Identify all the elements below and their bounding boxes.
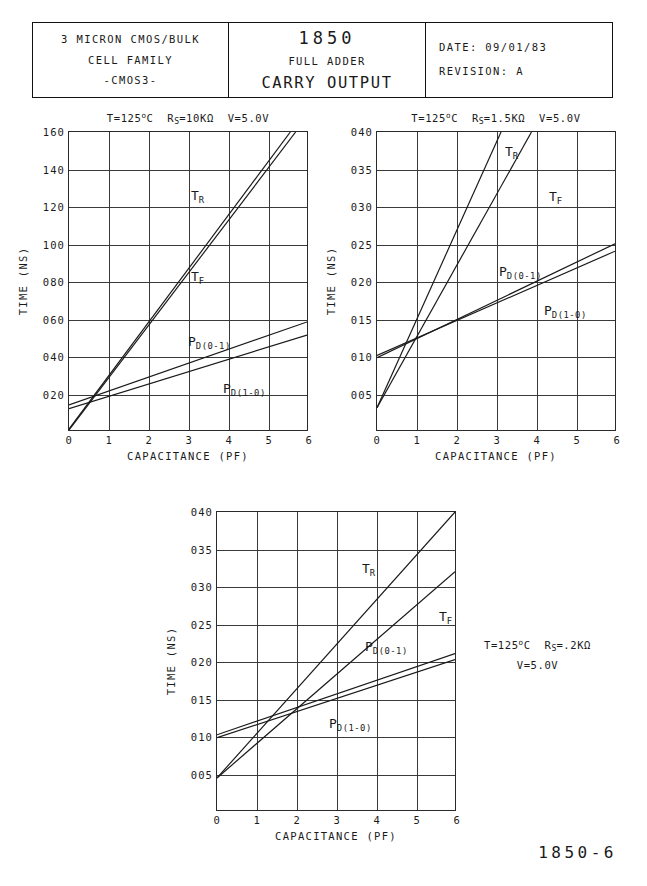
x-tick-label: 3 [334, 815, 341, 826]
x-tick-label: 4 [534, 435, 541, 446]
title-block-right: DATE: 09/01/83 REVISION: A [426, 23, 612, 97]
y-tick-label: 100 [43, 239, 65, 250]
x-tick-label: 6 [454, 815, 461, 826]
x-tick-label: 2 [454, 435, 461, 446]
chart-3-conditions-annotation: T=125oC RS=.2KΩ V=5.0V [484, 636, 591, 674]
chart-2-rs-value: =1.5KΩ [484, 112, 526, 124]
chart-3-x-axis-label: CAPACITANCE (PF) [275, 830, 397, 842]
date-value: 09/01/83 [485, 41, 547, 53]
part-family: FULL ADDER [288, 52, 365, 72]
y-tick-label: 040 [351, 127, 373, 138]
chart-1-temp: T=125 [107, 112, 142, 124]
chart-1-label-PD10: PD(1-0) [223, 382, 266, 398]
y-tick-label: 025 [351, 239, 373, 250]
chart-1: T=125oC RS=10KΩ V=5.0V TIME (NS) CAPACIT… [68, 131, 308, 431]
chart-2: T=125oC RS=1.5KΩ V=5.0V TIME (NS) CAPACI… [376, 131, 616, 431]
chart-3-label-TF: TF [439, 610, 453, 626]
y-tick-label: 020 [191, 657, 213, 668]
chart-1-plot-area: T=125oC RS=10KΩ V=5.0V TIME (NS) CAPACIT… [68, 131, 308, 431]
chart-1-label-TF: TF [191, 270, 205, 286]
x-tick-label: 5 [266, 435, 273, 446]
technology-line: -CMOS3- [103, 70, 157, 90]
chart-2-unit-c: C [451, 112, 458, 124]
cell-family-line: CELL FAMILY [88, 50, 173, 70]
chart-3-label-PD01: PD(0-1) [365, 640, 408, 656]
y-tick-label: 035 [191, 544, 213, 555]
chart-2-curves [377, 132, 615, 430]
chart-3-curves [217, 512, 455, 810]
chart-2-label-TF: TF [549, 190, 563, 206]
chart-1-x-axis-label: CAPACITANCE (PF) [127, 450, 249, 462]
chart-2-label-TR: TR [505, 145, 519, 161]
x-tick-label: 2 [294, 815, 301, 826]
title-block-middle: 1850 FULL ADDER CARRY OUTPUT [229, 23, 426, 97]
date-row: DATE: 09/01/83 [439, 36, 547, 60]
x-tick-label: 0 [374, 435, 381, 446]
y-tick-label: 080 [43, 277, 65, 288]
y-tick-label: 160 [43, 127, 65, 138]
chart-3-y-axis-label: TIME (NS) [165, 627, 177, 696]
chart-1-curves [69, 132, 307, 430]
chart-2-title: T=125oC RS=1.5KΩ V=5.0V [411, 111, 580, 126]
y-tick-label: 040 [43, 352, 65, 363]
chart-1-unit-c: C [147, 112, 154, 124]
chart-3-plot-area: TIME (NS) CAPACITANCE (PF) TR TF PD(0-1)… [216, 511, 456, 811]
y-tick-label: 140 [43, 164, 65, 175]
y-tick-label: 015 [191, 694, 213, 705]
part-function: CARRY OUTPUT [261, 72, 392, 95]
x-tick-label: 1 [106, 435, 113, 446]
y-tick-label: 010 [351, 352, 373, 363]
x-tick-label: 4 [226, 435, 233, 446]
process-line: 3 MICRON CMOS/BULK [61, 29, 200, 49]
x-tick-label: 0 [66, 435, 73, 446]
x-tick-label: 5 [414, 815, 421, 826]
chart-2-voltage: V=5.0V [539, 112, 581, 124]
y-tick-label: 010 [191, 732, 213, 743]
sheet-number: 1850-6 [538, 843, 617, 862]
y-tick-label: 020 [351, 277, 373, 288]
chart-2-plot-area: T=125oC RS=1.5KΩ V=5.0V TIME (NS) CAPACI… [376, 131, 616, 431]
x-tick-label: 2 [146, 435, 153, 446]
y-tick-label: 025 [191, 619, 213, 630]
revision-value: A [516, 65, 524, 77]
chart-2-label-PD10: PD(1-0) [544, 304, 587, 320]
chart-2-x-axis-label: CAPACITANCE (PF) [435, 450, 557, 462]
chart-3-label-TR: TR [362, 562, 376, 578]
y-tick-label: 035 [351, 164, 373, 175]
part-number: 1850 [299, 25, 356, 52]
chart-3-label-PD10: PD(1-0) [329, 717, 372, 733]
chart-2-series-PD01 [377, 244, 615, 358]
y-tick-label: 030 [351, 202, 373, 213]
chart-2-series-TR [377, 132, 501, 408]
chart-3-series-TF [217, 572, 455, 778]
x-tick-label: 1 [254, 815, 261, 826]
date-label: DATE: [439, 41, 478, 53]
y-tick-label: 005 [191, 769, 213, 780]
chart-1-label-TR: TR [191, 189, 205, 205]
title-block-left: 3 MICRON CMOS/BULK CELL FAMILY -CMOS3- [33, 23, 229, 97]
y-tick-label: 060 [43, 314, 65, 325]
chart-2-temp: T=125 [411, 112, 446, 124]
revision-label: REVISION: [439, 65, 509, 77]
y-tick-label: 030 [191, 582, 213, 593]
chart-1-y-axis-label: TIME (NS) [17, 247, 29, 316]
x-tick-label: 5 [574, 435, 581, 446]
revision-row: REVISION: A [439, 60, 524, 84]
chart-3-series-TR [217, 512, 455, 778]
y-tick-label: 015 [351, 314, 373, 325]
x-tick-label: 6 [306, 435, 313, 446]
chart-1-rs-value: =10KΩ [179, 112, 214, 124]
chart-1-label-PD01: PD(0-1) [188, 335, 231, 351]
chart-3-annotation-line-1: T=125oC RS=.2KΩ [484, 636, 591, 656]
chart-3: TIME (NS) CAPACITANCE (PF) TR TF PD(0-1)… [216, 511, 456, 811]
x-tick-label: 4 [374, 815, 381, 826]
y-tick-label: 040 [191, 507, 213, 518]
y-tick-label: 005 [351, 389, 373, 400]
x-tick-label: 0 [214, 815, 221, 826]
x-tick-label: 3 [494, 435, 501, 446]
chart-3-annotation-line-2: V=5.0V [484, 656, 591, 674]
chart-1-title: T=125oC RS=10KΩ V=5.0V [107, 111, 269, 126]
chart-2-y-axis-label: TIME (NS) [325, 247, 337, 316]
title-block: 3 MICRON CMOS/BULK CELL FAMILY -CMOS3- 1… [32, 22, 613, 98]
x-tick-label: 3 [186, 435, 193, 446]
